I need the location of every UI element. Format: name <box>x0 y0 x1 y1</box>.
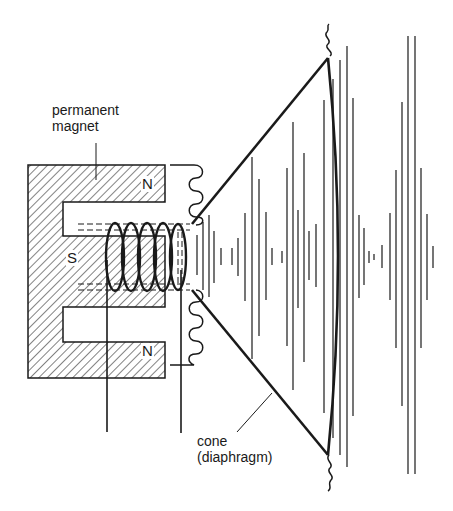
permanent-magnet-label: permanent magnet <box>52 102 119 134</box>
cone-suspension <box>170 24 332 491</box>
magnet-label-line1: permanent <box>52 102 119 118</box>
cone-label-line2: (diaphragm) <box>197 449 272 465</box>
cone-label-line1: cone <box>197 433 272 449</box>
cone-diaphragm-label: cone (diaphragm) <box>197 433 272 465</box>
south-pole-label: S <box>66 250 78 266</box>
north-pole-bottom-label: N <box>141 343 154 359</box>
north-pole-top-label: N <box>141 176 154 192</box>
sound-waves <box>197 36 433 474</box>
cone-leader-line <box>237 393 272 432</box>
magnet-label-line2: magnet <box>52 118 119 134</box>
